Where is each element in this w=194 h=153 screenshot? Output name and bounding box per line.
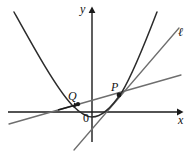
parabola-curve bbox=[14, 12, 157, 117]
q-pointer-shaft bbox=[58, 106, 74, 111]
point-P-label: P bbox=[111, 81, 118, 93]
origin-label: 0 bbox=[83, 112, 89, 124]
tangent-line-ell bbox=[74, 28, 179, 150]
y-axis-label: y bbox=[80, 3, 85, 15]
x-axis bbox=[8, 108, 184, 115]
graph-svg bbox=[0, 0, 194, 153]
point-Q-label: Q bbox=[68, 90, 77, 102]
figure-canvas: y x ℓ P Q 0 bbox=[0, 0, 194, 153]
y-axis bbox=[89, 7, 96, 143]
x-axis-label: x bbox=[178, 114, 183, 126]
y-axis-arrowhead bbox=[89, 7, 96, 14]
line-ell-label: ℓ bbox=[178, 26, 183, 38]
